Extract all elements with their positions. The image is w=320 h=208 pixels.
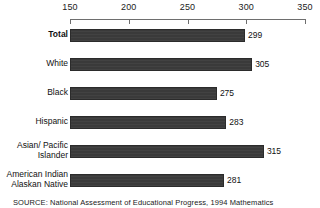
axis-tick-label: 150 [62, 2, 78, 12]
chart-row: American Indian Alaskan Native281 [0, 171, 320, 200]
axis-baseline [70, 19, 305, 20]
axis-tick-label: 200 [121, 2, 137, 12]
chart-bar [70, 58, 252, 71]
category-label: Hispanic [0, 117, 68, 127]
chart-row: White305 [0, 55, 320, 84]
bar-value-label: 275 [220, 89, 234, 99]
chart-bar [70, 116, 226, 129]
chart-x-axis: 150200250300350 [0, 0, 320, 26]
category-label: White [0, 59, 68, 69]
bar-value-label: 283 [229, 118, 243, 128]
chart-row: Black275 [0, 84, 320, 113]
chart-row: Asian/ Pacific Islander315 [0, 142, 320, 171]
category-label: American Indian Alaskan Native [0, 170, 68, 189]
chart-bar [70, 174, 224, 187]
chart-bar [70, 29, 245, 42]
category-label: Black [0, 88, 68, 98]
chart-plot-area: Total299White305Black275Hispanic283Asian… [0, 26, 320, 194]
bar-chart-figure: 150200250300350 Total299White305Black275… [0, 0, 320, 208]
chart-row: Total299 [0, 26, 320, 55]
chart-bar [70, 145, 264, 158]
bar-value-label: 281 [227, 176, 241, 186]
category-label: Total [0, 30, 68, 40]
bar-value-label: 315 [267, 147, 281, 157]
chart-bar [70, 87, 217, 100]
chart-row: Hispanic283 [0, 113, 320, 142]
axis-tick-label: 350 [297, 2, 313, 12]
bar-value-label: 299 [248, 31, 262, 41]
axis-tick-label: 300 [238, 2, 254, 12]
axis-tick-label: 250 [180, 2, 196, 12]
source-note: SOURCE: National Assessment of Education… [13, 198, 273, 207]
category-label: Asian/ Pacific Islander [0, 141, 68, 160]
axis-tick-mark [305, 19, 306, 24]
bar-value-label: 305 [255, 60, 269, 70]
